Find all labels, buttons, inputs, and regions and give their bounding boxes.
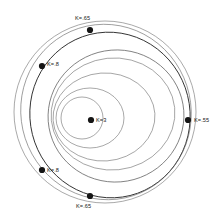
marker-dot-k-upper-left[interactable] (39, 63, 45, 69)
marker-label-k-bottom: K=.65 (76, 203, 91, 209)
marker-label-k-center: K=3 (96, 117, 106, 123)
orbit-curve-3 (45, 52, 180, 176)
orbit-curve-7 (14, 21, 196, 203)
curve-layer (0, 2, 214, 218)
marker-label-k-top: K=.65 (75, 15, 90, 21)
marker-dot-k-top[interactable] (87, 27, 93, 33)
marker-label-k-upper-left: K=.8 (47, 61, 59, 67)
marker-dot-k-center[interactable] (88, 117, 94, 123)
orbit-curve-6 (0, 2, 214, 218)
orbit-curve-5 (12, 15, 207, 215)
orbital-curve-canvas: K=.65K=.8K=3K=.55K=.8K=.65 (0, 0, 224, 218)
marker-label-k-lower-left: K=.8 (47, 167, 59, 173)
marker-dot-k-lower-left[interactable] (39, 167, 45, 173)
orbital-curve-figure: K=.65K=.8K=3K=.55K=.8K=.65 (0, 0, 224, 218)
marker-dot-k-bottom[interactable] (87, 193, 93, 199)
marker-label-k-right: K=.55 (194, 117, 209, 123)
marker-dot-k-right[interactable] (185, 117, 191, 123)
